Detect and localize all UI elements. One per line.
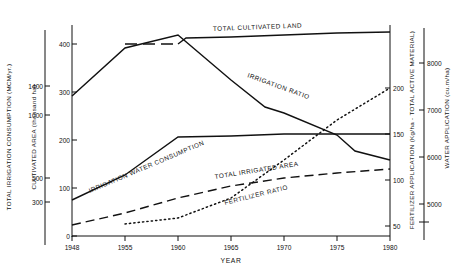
tick-fertilizer-100: 100 [393, 177, 404, 184]
tick-cultivated-400: 400 [59, 41, 70, 48]
axis-title-year: YEAR [221, 257, 242, 264]
xtick-1948: 1948 [65, 244, 80, 251]
axis-fertilizer-application: 200 150 100 50 FERTILIZER APPLICATION (K… [385, 25, 415, 236]
series-label-total-cultivated-land: TOTAL CULTIVATED LAND [213, 22, 302, 32]
xtick-1975: 1975 [330, 244, 345, 251]
series-total-cultivated-land: TOTAL CULTIVATED LAND [125, 22, 390, 44]
axis-year: 1948 1955 1960 1965 1970 1975 1980 YEAR [65, 236, 398, 264]
tick-fertilizer-200: 200 [393, 85, 404, 92]
tick-water-7000: 7000 [427, 107, 442, 114]
series-label-irrigation-ratio: IRRIGATION RATIO [247, 71, 311, 100]
axis-label-water-application: WATER APPLICATION (cu.m/ha) [443, 68, 450, 169]
tick-cultivated-300: 300 [59, 89, 70, 96]
series-label-fertilizer-ratio: FERTILIZER RATIO [224, 183, 289, 206]
series-irrigation-water-consumption: IRRIGATION WATER CONSUMPTION [72, 134, 390, 200]
chart-figure: 1400 1000 500 300 TOTAL IRRIGATION CONSU… [0, 0, 459, 274]
series-label-total-irrigated-area: TOTAL IRRIGATED AREA [214, 160, 299, 180]
tick-cultivated-200: 200 [59, 137, 70, 144]
tick-fertilizer-50: 50 [393, 223, 401, 230]
tick-left-outer-300: 300 [32, 199, 43, 206]
axis-cultivated-area: 400 300 200 100 0 CULTIVATED AREA (thous… [30, 25, 77, 240]
tick-water-8000: 8000 [427, 60, 442, 67]
tick-fertilizer-150: 150 [393, 131, 404, 138]
xtick-1955: 1955 [118, 244, 133, 251]
series-total-irrigated-area: TOTAL IRRIGATED AREA [72, 160, 390, 225]
xtick-1965: 1965 [224, 244, 239, 251]
tick-water-6000: 6000 [427, 154, 442, 161]
axis-water-application: 8000 7000 6000 5000 WATER APPLICATION (c… [419, 28, 450, 240]
tick-cultivated-100: 100 [59, 185, 70, 192]
axis-label-total-irrigation-consumption: TOTAL IRRIGATION CONSUMPTION (MCM/yr.) [5, 64, 12, 211]
series-irrigation-ratio: IRRIGATION RATIO [72, 35, 390, 160]
axis-label-fertilizer-application: FERTILIZER APPLICATION (Kg/ha - TOTAL AC… [408, 31, 415, 230]
axis-total-irrigation-consumption: 1400 1000 500 300 TOTAL IRRIGATION CONSU… [5, 30, 50, 245]
axis-label-cultivated-area: CULTIVATED AREA (thousand ha) [30, 84, 37, 189]
xtick-1970: 1970 [277, 244, 292, 251]
xtick-1980: 1980 [383, 244, 398, 251]
tick-water-5000: 5000 [427, 201, 442, 208]
tick-cultivated-0: 0 [66, 233, 70, 240]
chart-svg: 1400 1000 500 300 TOTAL IRRIGATION CONSU… [0, 0, 459, 274]
series-label-irrigation-water-consumption: IRRIGATION WATER CONSUMPTION [88, 139, 205, 194]
xtick-1960: 1960 [171, 244, 186, 251]
